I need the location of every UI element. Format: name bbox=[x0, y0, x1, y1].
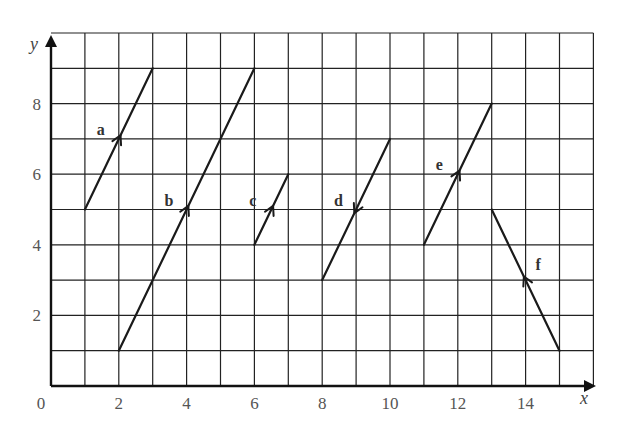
x-tick-label: 4 bbox=[182, 394, 191, 413]
y-axis-label: y bbox=[28, 34, 38, 54]
x-tick-label: 0 bbox=[37, 394, 46, 413]
x-axis-label: x bbox=[579, 388, 588, 408]
vector-diagram: 024681012142468 x y abcdef bbox=[0, 0, 622, 431]
x-tick-label: 12 bbox=[449, 394, 466, 413]
tick-labels: 024681012142468 bbox=[33, 95, 535, 413]
y-tick-label: 8 bbox=[33, 95, 42, 114]
vector-label: b bbox=[165, 192, 174, 209]
vector-label: c bbox=[249, 192, 256, 209]
x-tick-label: 8 bbox=[318, 394, 327, 413]
axes bbox=[45, 35, 596, 392]
vector-label: e bbox=[436, 156, 443, 173]
y-axis-arrow-icon bbox=[45, 35, 57, 47]
x-tick-label: 10 bbox=[382, 394, 399, 413]
y-tick-label: 6 bbox=[33, 165, 42, 184]
grid-lines bbox=[51, 33, 593, 386]
vector-label: f bbox=[536, 256, 542, 273]
vector-label: d bbox=[334, 192, 343, 209]
x-tick-label: 2 bbox=[115, 394, 124, 413]
y-tick-label: 4 bbox=[33, 236, 42, 255]
x-tick-label: 6 bbox=[250, 394, 259, 413]
vector-label: a bbox=[97, 121, 105, 138]
y-tick-label: 2 bbox=[33, 306, 42, 325]
x-tick-label: 14 bbox=[517, 394, 535, 413]
